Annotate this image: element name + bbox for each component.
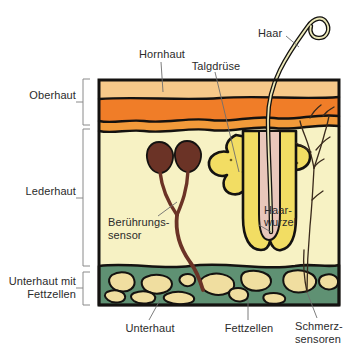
layer-bracket-epidermis: [76, 79, 90, 125]
fat-cell: [229, 288, 248, 301]
callout-label-talgdruese: Talgdrüse: [182, 60, 250, 73]
touch-sensor-bulb-right: [175, 141, 201, 172]
layer-bracket-dermis: [76, 129, 90, 266]
callout-label-schmerzsensoren-line1: Schmerz-: [295, 320, 353, 333]
callout-label-haar: Haar: [258, 27, 298, 40]
layer-label-hypodermis-line1: Unterhaut mit: [0, 275, 76, 288]
fat-cell: [179, 274, 195, 286]
fat-cell: [283, 270, 316, 292]
fat-cell: [263, 293, 285, 304]
fat-cell: [164, 292, 194, 304]
fat-cell: [241, 271, 271, 291]
fat-cell: [319, 274, 338, 289]
callout-label-unterhaut: Unterhaut: [112, 322, 188, 335]
callout-label-fettzellen: Fettzellen: [216, 322, 282, 335]
callout-label-schmerzsensoren-line2: sensoren: [295, 333, 353, 346]
skin-cross-section-figure: Oberhaut Lederhaut Unterhaut mit Fettzel…: [0, 0, 353, 348]
layer-label-epidermis: Oberhaut: [4, 89, 76, 102]
touch-sensor-bulb-left: [147, 142, 173, 173]
callout-label-haarwurzel-line1: Haar-: [264, 204, 324, 217]
fat-cell: [105, 290, 125, 302]
fat-cell: [109, 272, 134, 291]
callout-label-beruehrungssensor-line1: Berührungs-: [108, 216, 186, 229]
layer-bracket-hypodermis: [76, 272, 90, 305]
layer-label-dermis: Lederhaut: [4, 185, 76, 198]
callout-label-hornhaut: Hornhaut: [126, 48, 198, 61]
fat-cell: [131, 291, 155, 303]
layer-label-hypodermis-line2: Fettzellen: [0, 288, 76, 301]
callout-label-haarwurzel-line2: wurzel: [264, 216, 324, 229]
callout-label-beruehrungssensor-line2: sensor: [108, 229, 186, 242]
